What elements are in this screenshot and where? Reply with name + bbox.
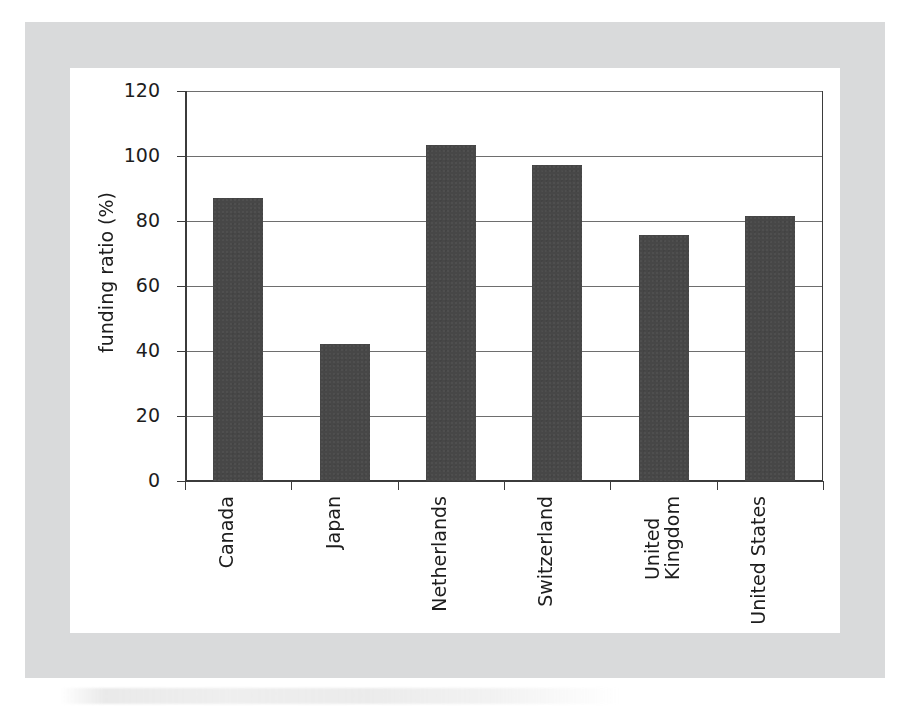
bar xyxy=(532,165,582,481)
gridline xyxy=(185,351,823,352)
y-axis-tick-label: 0 xyxy=(110,471,160,490)
bar xyxy=(320,344,370,481)
x-axis-tick xyxy=(823,481,824,490)
gridline xyxy=(185,91,823,92)
y-axis-tick xyxy=(177,416,185,417)
x-axis-tick xyxy=(610,481,611,490)
bar xyxy=(745,216,795,481)
y-axis-tick-label: 100 xyxy=(110,146,160,165)
y-axis-tick-label: 60 xyxy=(110,276,160,295)
x-axis-tick xyxy=(504,481,505,490)
x-axis-tick-label: Canada xyxy=(216,496,262,568)
y-axis-tick-label: 80 xyxy=(110,211,160,230)
x-axis-tick-label: United States xyxy=(748,496,794,625)
x-axis-tick xyxy=(398,481,399,490)
plot-right-border xyxy=(822,91,823,481)
y-axis-tick-label: 120 xyxy=(110,81,160,100)
x-axis-tick-label: United Kingdom xyxy=(642,496,688,580)
y-axis-tick xyxy=(177,156,185,157)
x-axis-tick-label: Japan xyxy=(323,496,369,549)
x-axis-origin-tick xyxy=(185,481,186,490)
bar xyxy=(639,235,689,481)
gridline xyxy=(185,221,823,222)
y-axis-line xyxy=(185,91,187,482)
gridline xyxy=(185,286,823,287)
bar xyxy=(426,145,476,481)
y-axis-tick xyxy=(177,286,185,287)
y-axis-tick xyxy=(177,221,185,222)
x-axis-tick-label: Switzerland xyxy=(535,496,581,607)
gridline xyxy=(185,156,823,157)
bar-chart: funding ratio (%) 020406080100120 Canada… xyxy=(0,0,907,708)
y-axis-tick-label: 20 xyxy=(110,406,160,425)
y-axis-tick-label: 40 xyxy=(110,341,160,360)
y-axis-tick xyxy=(177,351,185,352)
gridline xyxy=(185,416,823,417)
x-axis-tick-label: Netherlands xyxy=(429,496,475,612)
x-axis-tick xyxy=(717,481,718,490)
scanned-page: funding ratio (%) 020406080100120 Canada… xyxy=(0,0,907,708)
x-axis-tick xyxy=(291,481,292,490)
y-axis-tick xyxy=(177,481,185,482)
y-axis-tick xyxy=(177,91,185,92)
bar xyxy=(213,198,263,481)
